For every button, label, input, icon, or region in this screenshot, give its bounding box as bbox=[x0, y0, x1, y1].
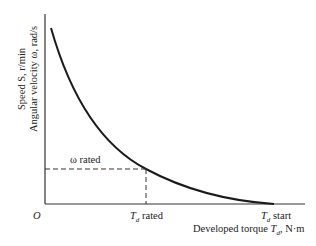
y-axis-label-speed: Speed S, r/min bbox=[17, 48, 28, 110]
speed-torque-curve bbox=[51, 28, 274, 204]
origin-label: O bbox=[33, 211, 41, 222]
y-axis-label-angular-velocity: Angular velocity ω, rad/s bbox=[29, 26, 40, 132]
td-rated-tick-label: Td rated bbox=[130, 211, 163, 224]
omega-rated-label: ω rated bbox=[70, 155, 101, 166]
x-axis-label: Developed torque Td, N·m bbox=[193, 224, 304, 237]
